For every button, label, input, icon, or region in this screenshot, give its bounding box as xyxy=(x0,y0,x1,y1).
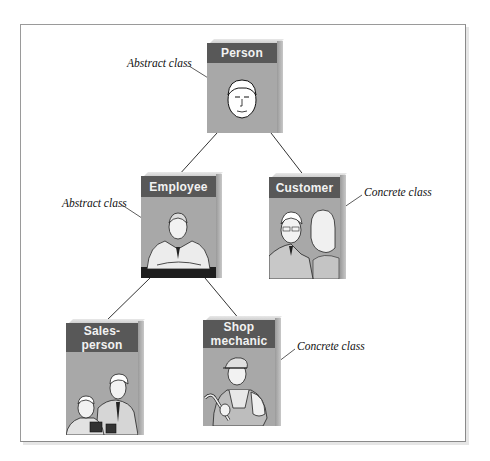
annotation-employee-abstract: Abstract class xyxy=(62,197,127,209)
annotation-customer-concrete: Concrete class xyxy=(364,186,432,198)
class-title: Employee xyxy=(141,176,216,197)
face-icon xyxy=(207,63,277,133)
annotation-shopmechanic-concrete: Concrete class xyxy=(297,340,365,352)
class-title: Person xyxy=(207,43,277,63)
man-in-suit-icon xyxy=(141,197,216,278)
couple-icon xyxy=(269,198,340,279)
annotation-person-abstract: Abstract class xyxy=(127,57,192,69)
mechanic-icon xyxy=(203,348,275,426)
edge-employee-salesperson xyxy=(104,278,150,323)
edge-person-customer xyxy=(271,133,305,177)
salespeople-icon xyxy=(66,352,138,435)
class-title: Shop mechanic xyxy=(203,320,275,348)
class-title: Customer xyxy=(269,177,340,198)
edge-person-employee xyxy=(178,133,217,176)
class-title: Sales- person xyxy=(66,323,138,352)
edge-employee-shopmechanic xyxy=(205,278,240,320)
